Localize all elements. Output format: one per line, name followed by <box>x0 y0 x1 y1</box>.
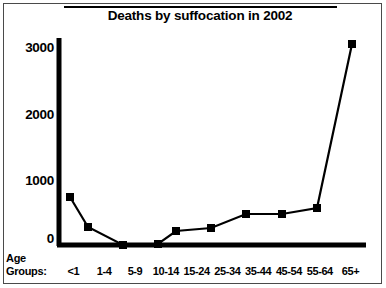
x-axis-caption: Age Groups: <box>6 252 60 278</box>
x-tick-label-45-54: 45-54 <box>274 265 305 281</box>
x-axis-caption-line-1: Age <box>6 252 60 265</box>
data-point-marker-5-9[interactable] <box>119 241 127 249</box>
x-tick-label-1-4: 1-4 <box>89 265 120 281</box>
data-point-marker-10-14[interactable] <box>154 240 162 248</box>
data-point-marker-65plus[interactable] <box>348 40 356 48</box>
data-point-marker-35-44[interactable] <box>242 210 250 218</box>
data-point-marker-55-64[interactable] <box>313 204 321 212</box>
plot-area <box>0 0 386 288</box>
data-point-marker-45-54[interactable] <box>278 210 286 218</box>
x-axis-caption-line-2: Groups: <box>6 265 60 278</box>
axis-lines <box>57 38 366 246</box>
x-tick-label-10-14: 10-14 <box>150 265 181 281</box>
x-tick-label-35-44: 35-44 <box>243 265 274 281</box>
series-polyline <box>70 44 352 245</box>
chart-figure: Deaths by suffocation in 2002 3000 2000 … <box>0 0 386 288</box>
data-point-marker-15-24[interactable] <box>172 227 180 235</box>
data-point-markers <box>66 40 356 249</box>
x-tick-label-65plus: 65+ <box>335 265 366 281</box>
x-axis-tick-labels: <1 1-4 5-9 10-14 15-24 25-34 35-44 45-54… <box>58 265 366 281</box>
x-tick-label-25-34: 25-34 <box>212 265 243 281</box>
x-tick-label-lt1: <1 <box>58 265 89 281</box>
data-series-line <box>70 44 352 245</box>
data-point-marker-lt1[interactable] <box>66 193 74 201</box>
x-tick-label-15-24: 15-24 <box>181 265 212 281</box>
data-point-marker-1-4[interactable] <box>84 223 92 231</box>
x-tick-label-5-9: 5-9 <box>120 265 151 281</box>
x-tick-label-55-64: 55-64 <box>304 265 335 281</box>
data-point-marker-25-34[interactable] <box>207 224 215 232</box>
